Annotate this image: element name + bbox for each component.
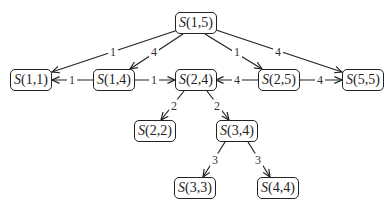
node-S15: S(1,5) bbox=[175, 12, 217, 34]
edge-label: 1 bbox=[67, 74, 77, 87]
node-S44: S(4,4) bbox=[257, 177, 299, 199]
node-S22: S(2,2) bbox=[134, 120, 176, 142]
node-args: (3,3) bbox=[185, 180, 212, 195]
node-function: S bbox=[220, 123, 227, 138]
node-S24: S(2,4) bbox=[175, 69, 217, 91]
edge-label: 2 bbox=[212, 100, 222, 113]
edge-label: 4 bbox=[149, 46, 159, 59]
node-function: S bbox=[179, 72, 186, 87]
node-function: S bbox=[14, 72, 21, 87]
node-function: S bbox=[262, 72, 269, 87]
node-args: (3,4) bbox=[227, 123, 254, 138]
edge-label: 3 bbox=[210, 154, 220, 167]
edge-label: 3 bbox=[253, 154, 263, 167]
node-function: S bbox=[179, 15, 186, 30]
node-args: (5,5) bbox=[353, 72, 380, 87]
node-args: (1,1) bbox=[21, 72, 48, 87]
node-args: (2,5) bbox=[269, 72, 296, 87]
node-S11: S(1,1) bbox=[10, 69, 52, 91]
node-function: S bbox=[97, 72, 104, 87]
node-function: S bbox=[138, 123, 145, 138]
node-args: (2,2) bbox=[145, 123, 172, 138]
edges bbox=[52, 29, 342, 177]
node-S33: S(3,3) bbox=[174, 177, 216, 199]
edge-label: 4 bbox=[273, 46, 283, 59]
edge-label: 1 bbox=[108, 46, 118, 59]
edge-label: 4 bbox=[315, 74, 325, 87]
node-args: (4,4) bbox=[268, 180, 295, 195]
node-S25: S(2,5) bbox=[258, 69, 300, 91]
edge-label: 1 bbox=[232, 46, 242, 59]
node-function: S bbox=[178, 180, 185, 195]
node-S34: S(3,4) bbox=[216, 120, 258, 142]
node-function: S bbox=[261, 180, 268, 195]
node-function: S bbox=[346, 72, 353, 87]
edge-label: 4 bbox=[232, 74, 242, 87]
node-args: (1,5) bbox=[186, 15, 213, 30]
edge-label: 2 bbox=[169, 100, 179, 113]
node-args: (2,4) bbox=[186, 72, 213, 87]
node-S55: S(5,5) bbox=[342, 69, 384, 91]
edge-label: 1 bbox=[149, 74, 159, 87]
node-args: (1,4) bbox=[104, 72, 131, 87]
node-S14: S(1,4) bbox=[93, 69, 135, 91]
